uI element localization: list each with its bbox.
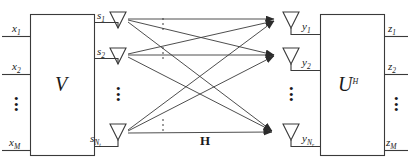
- transmit-feed-lines: [95, 23, 119, 147]
- input-ellipsis: •••: [14, 96, 18, 113]
- output-label-zM: zM: [386, 137, 397, 148]
- transmit-antenna-nt: [110, 124, 126, 140]
- output-label-z1: z1: [388, 23, 396, 34]
- receive-antenna-nr: [283, 124, 299, 140]
- transmit-ellipsis: •••: [116, 86, 120, 103]
- receive-antenna-1: [283, 12, 299, 28]
- precoder-block-label: V: [55, 74, 67, 94]
- mimo-system-diagram: x1 x2 xM s1 s2 sNt y1 y2 yNr z1 z2 zM V …: [0, 0, 410, 162]
- input-label-xM: xM: [9, 137, 20, 148]
- output-label-z2: z2: [388, 61, 396, 72]
- stream-label-yNr: yNr: [302, 133, 314, 144]
- receive-antenna-2: [283, 48, 299, 64]
- stream-label-y2: y2: [302, 57, 311, 68]
- stream-label-s1: s1: [97, 10, 105, 21]
- combiner-block-label: UH: [338, 74, 358, 94]
- receive-ellipsis: •••: [289, 86, 293, 103]
- stream-label-sNt: sNt: [90, 133, 101, 144]
- input-label-x2: x2: [12, 61, 21, 72]
- stream-label-s2: s2: [97, 46, 105, 57]
- output-ellipsis: •••: [394, 96, 398, 113]
- stream-label-y1: y1: [302, 21, 311, 32]
- input-label-x1: x1: [12, 23, 21, 34]
- receive-feed-lines: [291, 28, 321, 147]
- channel-path-arrows: [128, 19, 274, 133]
- channel-matrix-label: H: [200, 134, 210, 147]
